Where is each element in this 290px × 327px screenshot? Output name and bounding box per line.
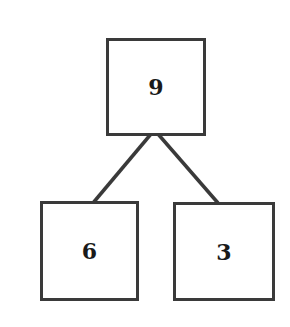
part-left-box: 6 xyxy=(40,201,139,301)
whole-box: 9 xyxy=(106,38,206,136)
edge-whole-to-right xyxy=(158,134,218,203)
edge-whole-to-left xyxy=(93,134,151,203)
part-right-box: 3 xyxy=(173,202,275,301)
part-left-value: 6 xyxy=(82,238,97,264)
number-bond-diagram: 9 6 3 xyxy=(0,0,290,327)
part-right-value: 3 xyxy=(216,239,231,265)
whole-value: 9 xyxy=(148,74,163,100)
